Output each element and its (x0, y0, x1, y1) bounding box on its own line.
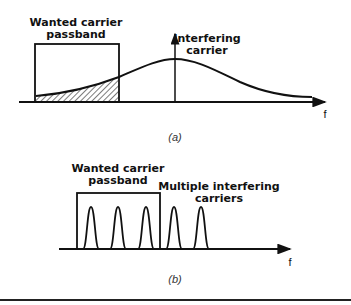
interfering-label-line2: carrier (186, 44, 228, 57)
carrier-peak-1 (83, 207, 99, 249)
axis-label-f-a: f (323, 108, 327, 120)
caption-a: (a) (168, 131, 182, 143)
multiple-interfering-label-line2: carriers (195, 192, 243, 205)
caption-b: (b) (168, 273, 182, 285)
carrier-peak-4 (166, 207, 182, 249)
wanted-label-b-line2: passband (88, 174, 147, 187)
axis-label-f-b: f (288, 256, 292, 268)
figure: Wanted carrier passband Interfering carr… (0, 0, 351, 305)
carrier-peak-5 (193, 207, 209, 249)
carrier-peak-2 (110, 207, 126, 249)
panel-b: Wanted carrier passband Multiple interfe… (59, 162, 292, 285)
wanted-label-a-line2: passband (46, 28, 105, 41)
carrier-peaks (83, 207, 209, 249)
panel-a: Wanted carrier passband Interfering carr… (19, 16, 327, 143)
wanted-passband-box-b (77, 193, 160, 249)
carrier-peak-3 (138, 207, 154, 249)
